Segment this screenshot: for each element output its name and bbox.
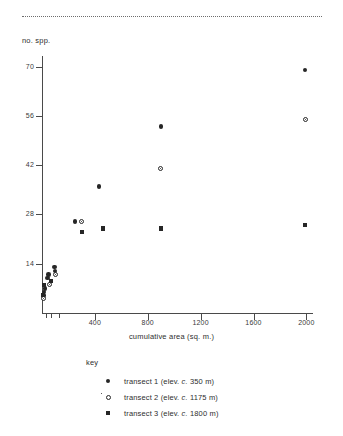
y-tick-label: 14 bbox=[14, 260, 34, 268]
data-point-series-3 bbox=[159, 226, 163, 230]
y-tick bbox=[36, 214, 42, 215]
y-axis-title: no. spp. bbox=[22, 36, 50, 45]
x-minor-tick bbox=[46, 314, 47, 318]
open-circle-icon bbox=[100, 392, 116, 402]
data-point-series-3 bbox=[42, 283, 46, 287]
data-point-series-3 bbox=[80, 230, 84, 234]
legend-item-label: transect 1 (elev. c. 350 m) bbox=[124, 377, 214, 386]
legend-item-label: transect 2 (elev. c. 1175 m) bbox=[124, 393, 218, 402]
x-tick-label: 800 bbox=[131, 319, 165, 327]
y-tick-label: 70 bbox=[14, 63, 34, 71]
x-axis-title: cumulative area (sq. m.) bbox=[0, 332, 343, 341]
filled-circle-icon bbox=[100, 376, 116, 386]
data-point-series-1 bbox=[159, 124, 164, 129]
figure-page: no. spp. cumulative area (sq. m.) 142842… bbox=[0, 0, 343, 436]
y-tick bbox=[36, 116, 42, 117]
legend-item-label: transect 3 (elev. c. 1800 m) bbox=[124, 409, 219, 418]
legend: key transect 1 (elev. c. 350 m)transect … bbox=[86, 358, 326, 421]
y-tick-label: 28 bbox=[14, 210, 34, 218]
legend-marker bbox=[106, 379, 111, 384]
data-point-series-3 bbox=[303, 223, 307, 227]
data-point-series-1 bbox=[46, 272, 51, 277]
x-tick-label: 400 bbox=[78, 319, 112, 327]
x-minor-tick bbox=[59, 314, 60, 318]
y-tick bbox=[36, 165, 42, 166]
legend-item-1: transect 1 (elev. c. 350 m) bbox=[100, 373, 326, 389]
x-tick-label: 2000 bbox=[289, 319, 323, 327]
scatter-plot: no. spp. cumulative area (sq. m.) 142842… bbox=[0, 0, 343, 340]
data-point-series-1 bbox=[97, 184, 102, 189]
data-point-series-1 bbox=[73, 219, 78, 224]
legend-item-2: transect 2 (elev. c. 1175 m) bbox=[100, 389, 326, 405]
data-point-series-3 bbox=[49, 279, 53, 283]
y-axis-line bbox=[42, 56, 43, 314]
x-tick-label: 1600 bbox=[237, 319, 271, 327]
data-point-series-2 bbox=[79, 219, 84, 224]
data-point-series-2 bbox=[303, 117, 308, 122]
x-axis-line bbox=[42, 313, 313, 314]
data-point-series-3 bbox=[41, 293, 45, 297]
y-tick-label: 56 bbox=[14, 112, 34, 120]
data-point-series-3 bbox=[101, 226, 105, 230]
filled-square-icon bbox=[100, 408, 116, 418]
legend-marker bbox=[106, 395, 111, 400]
legend-item-3: transect 3 (elev. c. 1800 m) bbox=[100, 405, 326, 421]
data-point-series-1 bbox=[303, 68, 308, 73]
y-tick bbox=[36, 264, 42, 265]
y-tick-label: 42 bbox=[14, 161, 34, 169]
x-minor-tick bbox=[51, 314, 52, 318]
data-point-series-2 bbox=[158, 166, 163, 171]
legend-title: key bbox=[86, 358, 326, 367]
legend-rows: transect 1 (elev. c. 350 m)transect 2 (e… bbox=[86, 373, 326, 421]
legend-marker bbox=[106, 411, 110, 415]
x-tick-label: 1200 bbox=[184, 319, 218, 327]
data-point-series-2 bbox=[53, 272, 58, 277]
y-tick bbox=[36, 67, 42, 68]
